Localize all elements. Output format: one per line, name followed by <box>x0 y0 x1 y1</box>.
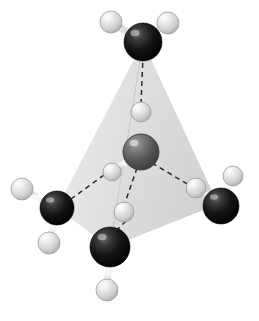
hydrogen-center-up <box>131 102 151 122</box>
hydrogen-left-lower <box>38 232 60 254</box>
molecule-figure: Tetrahedral molecular model <box>0 0 259 321</box>
hydrogen-top-left <box>100 11 122 33</box>
hydrogen-top-right <box>157 12 179 34</box>
carbon-top <box>124 23 162 61</box>
hydrogen-center-left <box>103 163 121 181</box>
highlight-carbon-bottom-front <box>98 234 107 240</box>
hydrogen-bottom-front <box>96 279 118 301</box>
carbon-right <box>203 188 239 224</box>
hydrogen-center-right <box>186 178 206 198</box>
highlight-carbon-right <box>210 194 218 200</box>
tetrahedral-molecule-diagram <box>0 0 259 321</box>
highlight-carbon-left <box>46 197 54 203</box>
highlight-carbon-center <box>130 140 139 146</box>
carbon-center <box>123 134 159 170</box>
highlight-carbon-top <box>131 30 140 36</box>
carbon-left <box>40 191 74 225</box>
hydrogen-center-down <box>114 202 134 222</box>
carbon-bottom-front <box>90 227 130 267</box>
hydrogen-right-upper <box>223 166 243 186</box>
hydrogen-left-upper <box>11 178 33 200</box>
